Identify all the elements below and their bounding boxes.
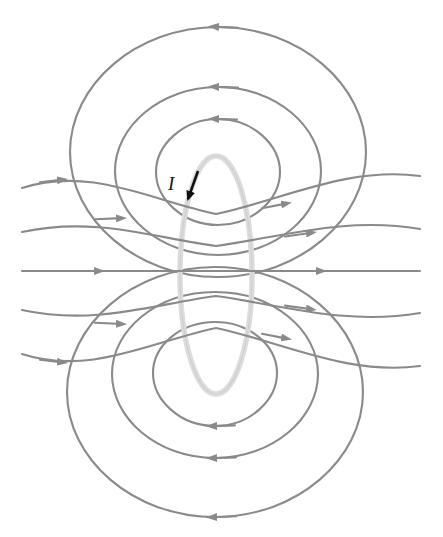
closed-loop-top-outer [70, 27, 366, 277]
open-line-2-arrow-left [95, 218, 122, 219]
open-line-2 [22, 225, 420, 246]
current-label: I [168, 174, 174, 193]
current-arrow-shaft [188, 171, 198, 199]
closed-loop-bottom-inner-arrow [211, 425, 235, 426]
open-line-5-arrow-right [262, 334, 287, 339]
magnetic-field-figure: I [0, 0, 443, 537]
closed-loop-bottom-middle-arrow [211, 457, 236, 458]
closed-loop-top-inner [156, 119, 280, 225]
closed-loop-top-middle-arrow [213, 87, 238, 88]
closed-loops-top [70, 27, 366, 277]
closed-loop-top-outer-arrow [213, 27, 238, 28]
closed-loop-top-middle [115, 87, 321, 255]
closed-loop-top-inner-arrow [213, 119, 237, 120]
open-line-5 [22, 328, 420, 368]
current-direction-arrow [188, 171, 198, 199]
closed-loop-bottom-middle [112, 292, 318, 458]
closed-loop-bottom-outer-arrow [211, 516, 236, 517]
open-line-4 [22, 296, 420, 317]
open-line-4-arrow-left [95, 323, 122, 324]
closed-loop-bottom-inner [153, 322, 277, 426]
field-line-canvas [0, 0, 443, 537]
open-line-1 [22, 174, 420, 214]
